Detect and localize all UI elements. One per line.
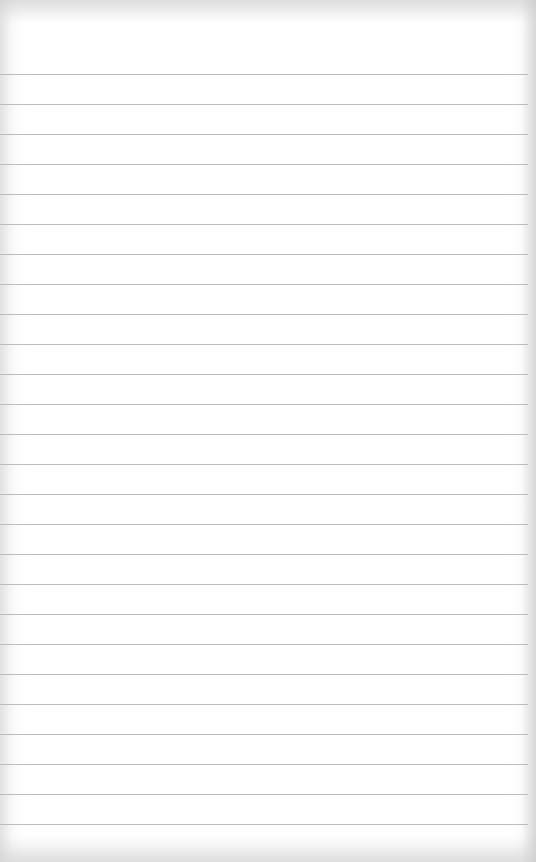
ruled-line [0, 134, 528, 135]
ruled-line [0, 314, 528, 315]
ruled-line [0, 524, 528, 525]
notepad-page [0, 0, 536, 862]
ruled-line [0, 734, 528, 735]
ruled-line [0, 554, 528, 555]
ruled-line [0, 344, 528, 345]
ruled-line [0, 794, 528, 795]
ruled-line [0, 284, 528, 285]
ruled-line [0, 644, 528, 645]
ruled-line [0, 164, 528, 165]
ruled-line [0, 584, 528, 585]
ruled-line [0, 494, 528, 495]
ruled-line [0, 704, 528, 705]
ruled-line [0, 194, 528, 195]
ruled-line [0, 74, 528, 75]
ruled-line [0, 674, 528, 675]
ruled-line [0, 824, 528, 825]
ruled-line [0, 764, 528, 765]
ruled-line [0, 404, 528, 405]
ruled-line [0, 434, 528, 435]
ruled-line [0, 464, 528, 465]
ruled-line [0, 254, 528, 255]
ruled-line [0, 374, 528, 375]
ruled-line [0, 224, 528, 225]
ruled-line [0, 614, 528, 615]
ruled-line [0, 104, 528, 105]
